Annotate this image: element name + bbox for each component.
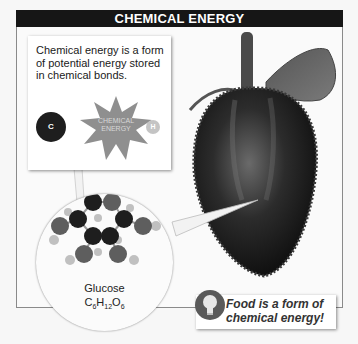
definition-text: Chemical energy is a form of potential e… — [36, 44, 168, 82]
definition-callout: Chemical energy is a form of potential e… — [28, 36, 171, 170]
glucose-magnifier: Glucose C6H12O6 — [36, 194, 173, 331]
hydrogen-atom: H — [146, 120, 160, 134]
burst-label: CHEMICAL ENERGY — [86, 117, 146, 133]
molecule-name: Glucose — [36, 282, 173, 294]
lightbulb-icon — [195, 290, 225, 320]
carbon-atom: C — [36, 112, 66, 142]
molecule-formula: C6H12O6 — [36, 296, 173, 310]
lightbulb-glyph-icon — [195, 290, 225, 320]
glucose-molecule-icon — [36, 194, 173, 331]
tip-text: Food is a form of chemical energy! — [226, 298, 324, 325]
